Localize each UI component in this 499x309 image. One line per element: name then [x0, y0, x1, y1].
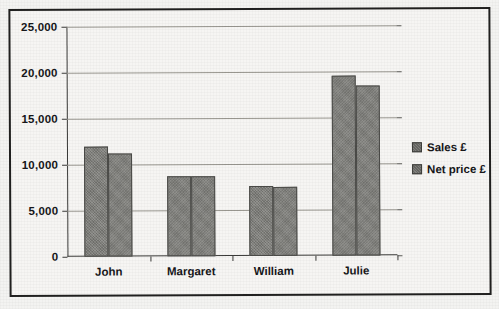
- bar-group: [331, 25, 380, 255]
- bar: [84, 147, 108, 257]
- bar: [191, 176, 215, 256]
- x-axis-label: William: [254, 265, 294, 277]
- x-tick-mark: [315, 256, 316, 261]
- legend-item[interactable]: Net price £: [412, 163, 486, 175]
- y-tick-mark-right: [397, 117, 402, 118]
- legend-swatch-icon: [412, 164, 422, 174]
- legend-label: Sales £: [427, 141, 467, 153]
- x-tick-mark: [397, 255, 398, 260]
- plot-area: 05,00010,00015,00020,00025,000 JohnMarga…: [66, 25, 397, 256]
- y-tick-mark: [62, 257, 67, 258]
- y-axis-label: 15,000: [21, 113, 57, 125]
- chart-legend: Sales £Net price £: [412, 141, 486, 185]
- legend-label: Net price £: [427, 163, 486, 175]
- chart-canvas: 05,00010,00015,00020,00025,000 JohnMarga…: [8, 7, 491, 297]
- y-axis-label: 10,000: [22, 159, 58, 171]
- bar: [331, 75, 356, 255]
- y-axis-label: 25,000: [21, 21, 57, 33]
- bar-pair: [84, 27, 133, 257]
- bar: [249, 186, 273, 256]
- bar: [273, 186, 297, 256]
- y-tick-mark-right: [397, 209, 402, 210]
- x-tick-mark: [150, 256, 151, 261]
- bar-group: [84, 27, 133, 257]
- y-axis-label: 0: [52, 251, 59, 263]
- x-tick-mark: [232, 256, 233, 261]
- legend-item[interactable]: Sales £: [412, 141, 486, 153]
- x-axis-label: John: [95, 266, 123, 278]
- y-axis-label: 20,000: [21, 67, 57, 79]
- bar-group: [166, 26, 215, 256]
- y-tick-mark-right: [396, 25, 401, 26]
- bar: [108, 153, 132, 256]
- x-axis-label: Julie: [343, 264, 369, 276]
- y-axis-label: 5,000: [28, 205, 58, 217]
- y-tick-mark-right: [397, 71, 402, 72]
- chart-page: 05,00010,00015,00020,00025,000 JohnMarga…: [0, 0, 499, 309]
- x-axis-label: Margaret: [167, 265, 216, 277]
- y-tick-mark-right: [397, 163, 402, 164]
- bar-pair: [331, 25, 380, 255]
- bar-group: [249, 26, 298, 256]
- bar-groups: [66, 25, 397, 256]
- legend-swatch-icon: [412, 142, 422, 152]
- bar-pair: [166, 26, 215, 256]
- bar: [167, 176, 191, 257]
- bar: [355, 85, 380, 255]
- bar-pair: [249, 26, 298, 256]
